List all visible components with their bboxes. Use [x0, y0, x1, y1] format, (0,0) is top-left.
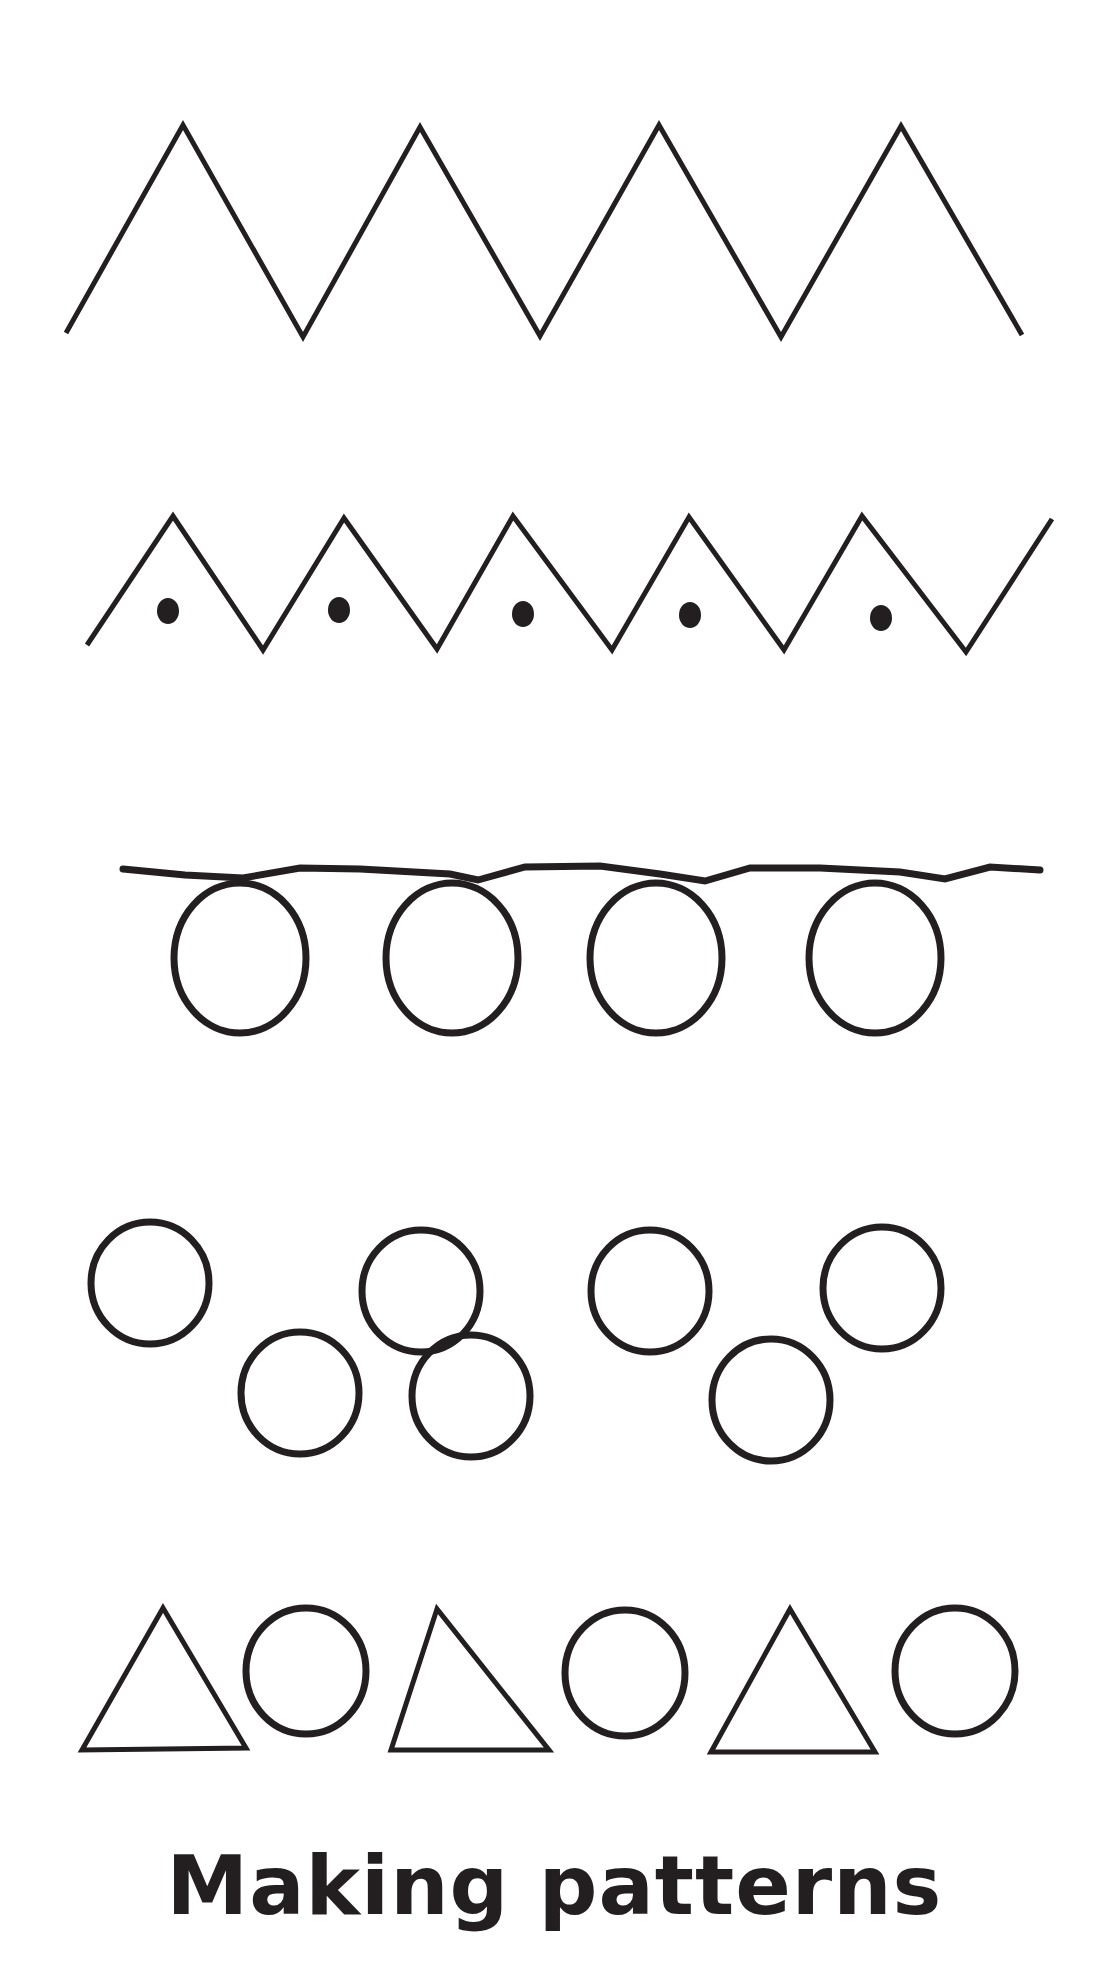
circles-group	[91, 1222, 941, 1461]
circle-shape	[246, 1608, 366, 1734]
circle-shape	[591, 1230, 709, 1352]
worksheet-title: Making patterns	[0, 1845, 1109, 1927]
triangle-shape	[391, 1609, 549, 1750]
triangles-group	[82, 1608, 875, 1752]
circle-shape	[412, 1335, 530, 1457]
circle-shape	[565, 1610, 685, 1736]
circle-shape	[91, 1222, 209, 1344]
circle-shape	[712, 1339, 830, 1461]
loops-group	[174, 883, 941, 1033]
small-zigzag-line	[87, 516, 1052, 652]
large-zigzag-line	[66, 125, 1022, 337]
circle-shape	[241, 1332, 359, 1454]
dot-icon	[157, 598, 179, 624]
triangle-shape	[711, 1609, 875, 1752]
loop-chain-row	[123, 866, 1040, 1033]
triangle-circle-row	[82, 1608, 1015, 1752]
dot-icon	[328, 597, 350, 623]
alternating-circles-group	[246, 1608, 1015, 1736]
loop-ellipse	[809, 883, 941, 1033]
staggered-circles-row	[91, 1222, 941, 1461]
dot-icon	[679, 602, 701, 628]
loop-ellipse	[386, 883, 518, 1033]
dot-icon	[512, 601, 534, 627]
zigzag-with-dots-row	[87, 516, 1052, 652]
dot-icon	[870, 605, 892, 631]
loop-ellipse	[174, 883, 306, 1033]
worksheet-canvas	[0, 0, 1109, 1982]
loop-ellipse	[590, 883, 722, 1033]
circle-shape	[823, 1227, 941, 1349]
dots-group	[157, 597, 892, 631]
triangle-shape	[82, 1608, 246, 1750]
loop-top-line	[123, 866, 1040, 881]
circle-shape	[895, 1608, 1015, 1734]
large-zigzag-row	[66, 125, 1022, 337]
